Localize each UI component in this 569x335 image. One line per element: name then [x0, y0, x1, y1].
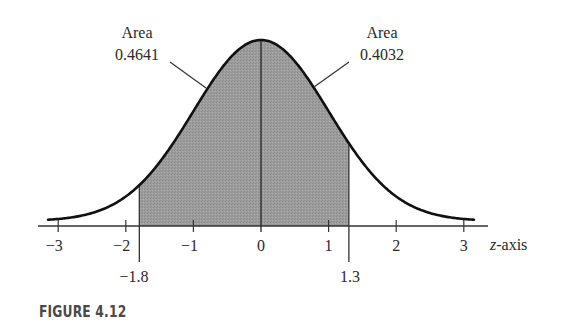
tick-label: −2	[113, 237, 130, 254]
tick-label: 3	[460, 237, 468, 254]
right-area-leader-line	[314, 62, 349, 87]
tick-label: 2	[392, 237, 400, 254]
left-area-leader-line	[170, 62, 206, 88]
z-axis-tick-labels: −3−2−10123	[46, 237, 468, 254]
tick-label: −3	[46, 237, 63, 254]
tick-label: 0	[257, 237, 265, 254]
shaded-area-region	[139, 40, 349, 226]
tick-label: 1	[325, 237, 333, 254]
left-area-value: 0.4641	[115, 46, 159, 63]
right-area-value: 0.4032	[360, 46, 404, 63]
left-area-title: Area	[121, 24, 152, 41]
figure-caption: FIGURE 4.12	[39, 303, 126, 321]
tick-label: −1	[181, 237, 198, 254]
z-axis-label-suffix: -axis	[496, 236, 527, 253]
mark-label-neg-1-8: −1.8	[119, 268, 148, 285]
normal-curve-figure: Area 0.4641 Area 0.4032 −3−2−10123 −1.8 …	[0, 0, 569, 300]
right-area-title: Area	[366, 24, 397, 41]
mark-label-1-3: 1.3	[340, 268, 360, 285]
z-axis-label: z-axis	[489, 236, 527, 253]
